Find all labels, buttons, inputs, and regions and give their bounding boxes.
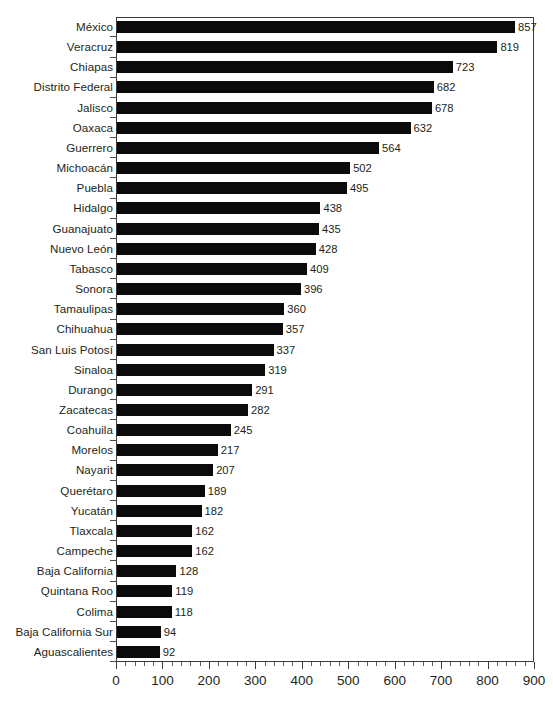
bar-row: Aguascalientes92 — [0, 642, 553, 662]
category-label: Tamaulipas — [54, 299, 113, 319]
bar-value-label: 632 — [414, 118, 433, 138]
bar-row: San Luis Potosí337 — [0, 340, 553, 360]
bar-value-label: 337 — [277, 340, 296, 360]
bar-row: Nayarit207 — [0, 460, 553, 480]
x-axis: 0100200300400500600700800900 — [0, 662, 553, 704]
x-axis-minor-tick — [367, 662, 368, 666]
bar-row: Sonora396 — [0, 279, 553, 299]
bar — [117, 485, 205, 497]
x-axis-minor-tick — [339, 662, 340, 666]
bar — [117, 122, 411, 134]
bar-row: Quintana Roo119 — [0, 581, 553, 601]
bar-value-label: 564 — [382, 138, 401, 158]
bar-row: Zacatecas282 — [0, 400, 553, 420]
category-label: Sinaloa — [74, 360, 113, 380]
bar-row: Morelos217 — [0, 440, 553, 460]
category-label: Distrito Federal — [34, 77, 113, 97]
bar-value-label: 357 — [286, 319, 305, 339]
category-label: Nuevo León — [50, 239, 113, 259]
x-axis-tick-label: 400 — [291, 673, 314, 688]
x-axis-minor-tick — [218, 662, 219, 666]
category-label: Tlaxcala — [69, 521, 113, 541]
x-axis-minor-tick — [274, 662, 275, 666]
x-axis-minor-tick — [432, 662, 433, 666]
bar — [117, 525, 192, 537]
category-label: Colima — [77, 602, 113, 622]
bar-row: Campeche162 — [0, 541, 553, 561]
x-axis-minor-tick — [450, 662, 451, 666]
bar-value-label: 92 — [163, 642, 175, 662]
x-axis-tick-label: 900 — [523, 673, 546, 688]
category-label: Durango — [68, 380, 113, 400]
category-label: Coahuila — [67, 420, 113, 440]
category-label: Nayarit — [76, 460, 113, 480]
category-label: San Luis Potosí — [31, 340, 113, 360]
bar-value-label: 360 — [287, 299, 306, 319]
bar — [117, 545, 192, 557]
bar-row: Veracruz819 — [0, 37, 553, 57]
category-label: Zacatecas — [59, 400, 113, 420]
x-axis-minor-tick — [385, 662, 386, 666]
category-label: Sonora — [75, 279, 113, 299]
category-label: Hidalgo — [73, 198, 113, 218]
x-axis-major-tick — [162, 662, 163, 669]
x-axis-major-tick — [209, 662, 210, 669]
bar-row: Michoacán502 — [0, 158, 553, 178]
x-axis-major-tick — [488, 662, 489, 669]
bar-row: Chiapas723 — [0, 57, 553, 77]
bar-row: Coahuila245 — [0, 420, 553, 440]
x-axis-major-tick — [441, 662, 442, 669]
bar — [117, 162, 350, 174]
bar — [117, 585, 172, 597]
bar — [117, 142, 379, 154]
bar — [117, 404, 248, 416]
bar-value-label: 678 — [435, 98, 454, 118]
bar — [117, 646, 160, 658]
bar-row: Tamaulipas360 — [0, 299, 553, 319]
bar-row: Baja California Sur94 — [0, 622, 553, 642]
category-label: Baja California — [37, 561, 113, 581]
bar — [117, 344, 274, 356]
category-label: Aguascalientes — [34, 642, 113, 662]
bar-value-label: 502 — [353, 158, 372, 178]
bar — [117, 364, 265, 376]
x-axis-minor-tick — [497, 662, 498, 666]
x-axis-minor-tick — [413, 662, 414, 666]
x-axis-minor-tick — [135, 662, 136, 666]
bar — [117, 21, 515, 33]
x-axis-minor-tick — [227, 662, 228, 666]
x-axis-minor-tick — [246, 662, 247, 666]
bar-row: Tlaxcala162 — [0, 521, 553, 541]
bar-value-label: 319 — [268, 360, 287, 380]
bar — [117, 202, 320, 214]
bar — [117, 444, 218, 456]
bar-row: Sinaloa319 — [0, 360, 553, 380]
bar — [117, 464, 213, 476]
bar — [117, 41, 497, 53]
bar-rows-container: México857Veracruz819Chiapas723Distrito F… — [0, 17, 553, 662]
bar-row: Puebla495 — [0, 178, 553, 198]
bar-value-label: 723 — [456, 57, 475, 77]
bar-value-label: 162 — [195, 521, 214, 541]
x-axis-minor-tick — [311, 662, 312, 666]
x-axis-tick-label: 100 — [151, 673, 174, 688]
category-label: Quintana Roo — [41, 581, 113, 601]
bar-value-label: 495 — [350, 178, 369, 198]
x-axis-minor-tick — [460, 662, 461, 666]
x-axis-minor-tick — [237, 662, 238, 666]
bar — [117, 565, 176, 577]
bar-row: Jalisco678 — [0, 98, 553, 118]
bar-value-label: 438 — [323, 198, 342, 218]
x-axis-minor-tick — [172, 662, 173, 666]
bar-row: Oaxaca632 — [0, 118, 553, 138]
category-label: Morelos — [71, 440, 113, 460]
x-axis-minor-tick — [153, 662, 154, 666]
x-axis-minor-tick — [181, 662, 182, 666]
bar-value-label: 857 — [518, 17, 537, 37]
bar-value-label: 162 — [195, 541, 214, 561]
x-axis-major-tick — [116, 662, 117, 669]
bar — [117, 263, 307, 275]
bar-value-label: 435 — [322, 219, 341, 239]
x-axis-minor-tick — [358, 662, 359, 666]
x-axis-minor-tick — [265, 662, 266, 666]
